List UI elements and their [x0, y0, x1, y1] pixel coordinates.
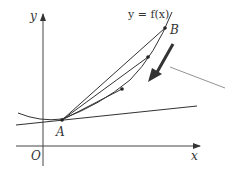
secant-line-2 [62, 57, 148, 120]
point-a [60, 118, 64, 122]
point-b [163, 26, 167, 30]
point-intermediate-2 [120, 87, 124, 91]
secant-tangent-diagram: y = f(x) y x O A B [0, 0, 233, 174]
axis-x-label: x [191, 149, 198, 163]
function-curve [18, 12, 172, 120]
direction-arrow-icon [156, 44, 173, 74]
point-b-label: B [169, 23, 179, 37]
curve-label: y = f(x) [127, 8, 169, 21]
point-a-label: A [55, 125, 65, 139]
pointer-line [170, 67, 225, 88]
diagram-canvas: y = f(x) y x O A B [0, 0, 233, 174]
origin-label: O [31, 149, 41, 163]
secant-line-ab [62, 28, 165, 120]
point-intermediate-1 [146, 55, 150, 59]
axis-y-label: y [29, 9, 37, 23]
